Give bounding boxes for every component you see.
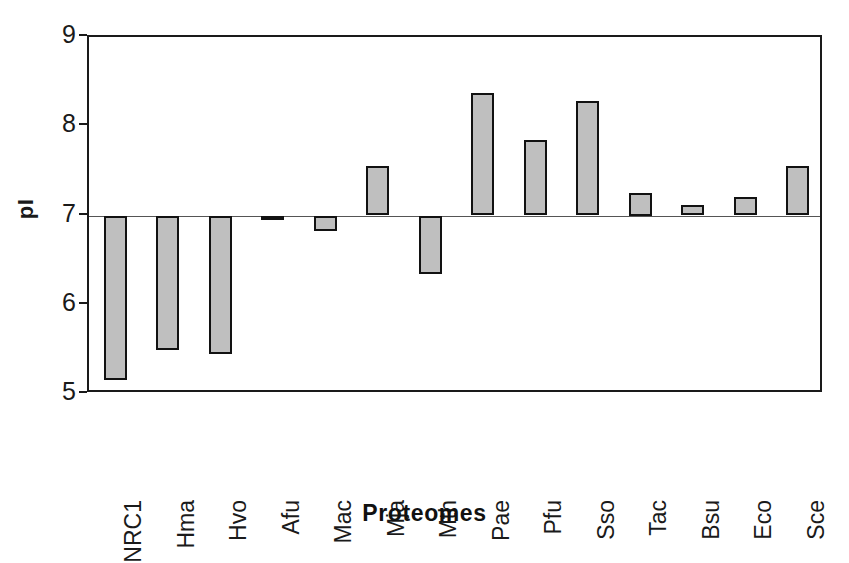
bar [366, 166, 389, 216]
y-tick-label: 9 [46, 22, 76, 47]
bar [261, 216, 284, 220]
y-tick-label: 7 [46, 201, 76, 226]
y-axis-tick [79, 302, 87, 304]
y-axis-tick [79, 34, 87, 36]
bar [471, 93, 494, 215]
bar [209, 216, 232, 354]
x-axis-title: Proteomes [0, 500, 849, 527]
bar [104, 216, 127, 380]
y-tick-label: 6 [46, 290, 76, 315]
baseline-gridline [89, 216, 820, 217]
bar [156, 216, 179, 351]
bar [314, 216, 337, 231]
bar [524, 140, 547, 216]
plot-area [87, 35, 822, 392]
x-axis: NRC1HmaHvoAfuMacMjaMthPaePfuSsoTacBsuEco… [0, 392, 849, 502]
y-axis-tick [79, 391, 87, 393]
y-axis-tick [79, 123, 87, 125]
y-tick-label: 8 [46, 111, 76, 136]
bar [419, 216, 442, 274]
bar [629, 193, 652, 215]
y-axis-tick [79, 213, 87, 215]
bar [786, 166, 809, 216]
bar [734, 197, 757, 216]
plot-inner [89, 37, 820, 390]
bar [576, 101, 599, 215]
bar [681, 205, 704, 216]
